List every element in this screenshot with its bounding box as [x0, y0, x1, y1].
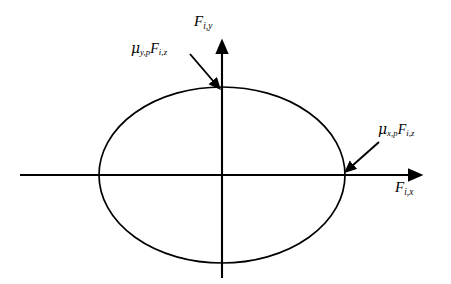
friction-ellipse-figure: Fi,y Fi,x μy,pFi,z μx,pFi,z: [0, 0, 451, 284]
y-axis-label-base: F: [194, 13, 203, 29]
mu-subscript: y,p: [140, 47, 150, 57]
x-axis-label-subscript: i,x: [404, 187, 413, 197]
mu-symbol: μ: [378, 121, 387, 137]
figure-canvas: [0, 0, 451, 284]
x-axis-label-base: F: [395, 179, 404, 195]
force-subscript: i,z: [406, 128, 414, 138]
annotation-arrow-y-icon: [190, 54, 214, 82]
annotation-label-mu-y: μy,pFi,z: [131, 41, 167, 57]
y-axis-label-subscript: i,y: [203, 21, 212, 31]
annotation-label-mu-x: μx,pFi,z: [378, 122, 415, 138]
x-axis-label: Fi,x: [395, 180, 414, 197]
mu-subscript: x,p: [387, 128, 398, 138]
y-axis-label: Fi,y: [194, 14, 213, 31]
annotation-arrow-x-icon: [352, 142, 379, 166]
mu-symbol: μ: [131, 40, 140, 56]
force-symbol: F: [150, 41, 159, 56]
force-subscript: i,z: [159, 47, 167, 57]
